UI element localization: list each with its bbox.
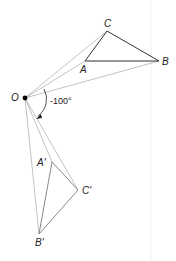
rotation-diagram: O -100° A B C A' B' C' (0, 0, 176, 261)
ray-OA (25, 61, 85, 98)
center-point-O (23, 96, 28, 101)
label-B: B (162, 56, 169, 67)
angle-label: -100° (50, 96, 72, 106)
triangle-ABC (85, 31, 159, 61)
triangle-A-prime-B-prime-C-prime (39, 162, 78, 234)
ray-OA-prime (25, 98, 52, 162)
rays-original (25, 31, 159, 98)
label-B-prime: B' (35, 237, 45, 248)
label-C: C (104, 18, 112, 29)
ray-OC (25, 31, 107, 98)
diagram-canvas: O -100° A B C A' B' C' (0, 0, 176, 261)
ray-OB (25, 61, 159, 98)
label-C-prime: C' (82, 185, 92, 196)
label-O: O (11, 92, 19, 103)
label-A: A (79, 64, 87, 75)
label-A-prime: A' (36, 157, 47, 168)
